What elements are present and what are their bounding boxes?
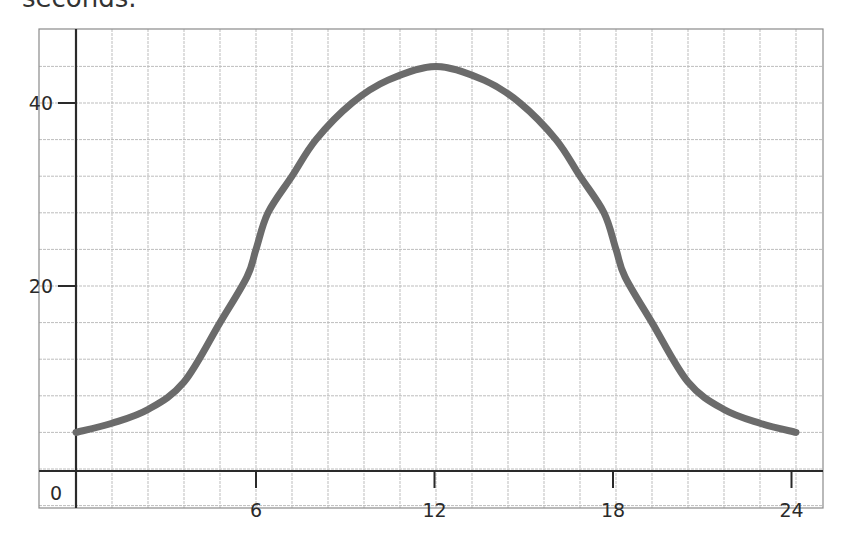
x-tick-label: 6 bbox=[250, 499, 262, 521]
grid-lines bbox=[39, 29, 823, 508]
line-chart: 612182420400 bbox=[0, 0, 841, 533]
axes bbox=[39, 29, 823, 508]
x-tick-label: 18 bbox=[601, 499, 625, 521]
y-tick-label: 20 bbox=[29, 275, 53, 297]
y-tick-label: 40 bbox=[29, 92, 53, 114]
x-tick-label: 12 bbox=[422, 499, 446, 521]
origin-label: 0 bbox=[50, 482, 62, 504]
plot-border bbox=[39, 29, 823, 508]
tick-labels: 612182420400 bbox=[29, 92, 804, 521]
x-tick-label: 24 bbox=[779, 499, 803, 521]
